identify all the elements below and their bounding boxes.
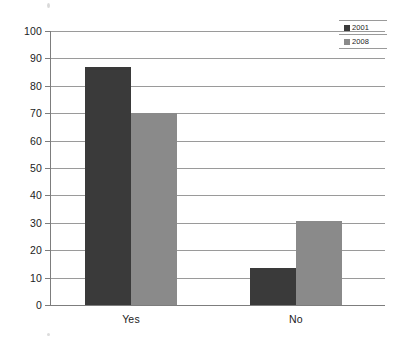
bar-chart: 1009080706050403020100 YesNo 2001 2008 [0, 0, 404, 343]
legend-item-2008[interactable]: 2008 [339, 35, 387, 48]
legend: 2001 2008 [339, 20, 387, 49]
y-axis-tick-label: 20 [8, 245, 42, 256]
gridline [51, 31, 385, 32]
y-axis-tick-label: 60 [8, 136, 42, 147]
bar-no-2008 [296, 221, 342, 305]
y-axis-tick-label: 70 [8, 108, 42, 119]
gridline [51, 305, 385, 306]
x-axis-label-no: No [256, 314, 336, 325]
plot-area [51, 31, 385, 305]
y-axis-tick-label: 30 [8, 218, 42, 229]
scan-artifact-top-icon [47, 3, 50, 8]
bar-yes-2001 [85, 67, 131, 305]
legend-swatch-2001-icon [344, 25, 350, 31]
y-axis-tick-label: 80 [8, 81, 42, 92]
y-axis-tick-label: 50 [8, 163, 42, 174]
legend-label-2008: 2008 [352, 38, 369, 46]
bar-no-2001 [250, 268, 296, 305]
legend-swatch-2008-icon [344, 39, 350, 45]
legend-item-2001[interactable]: 2001 [339, 21, 387, 34]
legend-label-2001: 2001 [352, 24, 369, 32]
gridline [51, 58, 385, 59]
y-axis-tick-label: 10 [8, 273, 42, 284]
y-axis-tick-label: 90 [8, 53, 42, 64]
y-axis-tick-label: 40 [8, 190, 42, 201]
x-axis-label-yes: Yes [91, 314, 171, 325]
legend-rule-bottom [339, 48, 387, 49]
y-axis-tick-label: 0 [8, 300, 42, 311]
y-axis-tick-label: 100 [8, 26, 42, 37]
bar-yes-2008 [131, 113, 177, 305]
scan-artifact-bottom-icon [47, 333, 50, 336]
